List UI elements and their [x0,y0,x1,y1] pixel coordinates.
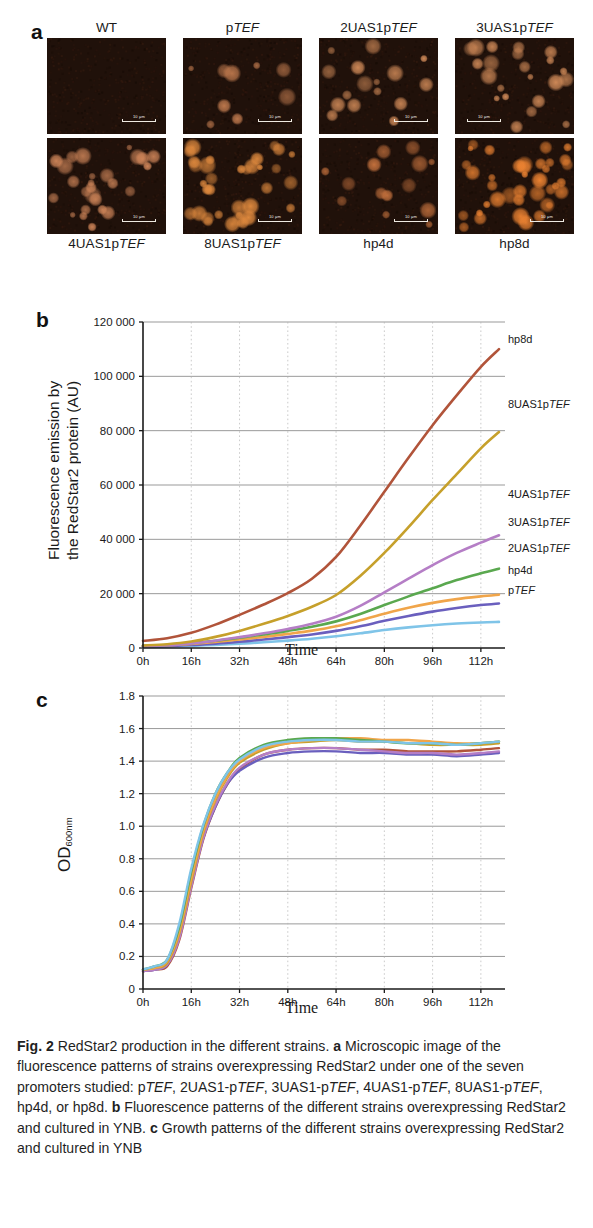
scale-bar: 10 μm [394,214,428,222]
panel-b-y-axis-line2: the RedStar2 protein (AU) [64,380,81,559]
scale-bar-line [122,219,156,222]
microscopy-label: 2UAS1pTEF [319,18,438,38]
microscopy-label-plain: 2UAS1p [340,20,391,35]
x-tick-label: 96h [423,655,442,667]
scale-bar: 10 μm [394,114,428,122]
microscopy-row-top: WT10 μmpTEF10 μm2UAS1pTEF10 μm3UAS1pTEF1… [47,18,577,134]
figure-2: a WT10 μmpTEF10 μm2UAS1pTEF10 μm3UAS1pTE… [0,0,593,1228]
y-tick-label: 1.8 [119,690,135,702]
scale-bar-label: 10 μm [269,214,281,219]
microscopy-label-plain: 4UAS1p [68,236,119,251]
microscopy-label: 3UAS1pTEF [455,18,574,38]
panel-c-y-axis-title: OD600nm [55,780,81,910]
panel-c-y-axis-main: OD [55,847,74,873]
microscopy-label: 4UAS1pTEF [47,234,166,254]
caption-a-tef1: TEF [145,1079,172,1095]
caption-a-tef4: TEF [420,1079,447,1095]
x-tick-label: 0h [137,655,150,667]
microscopy-cell: 10 μmhp8d [455,138,574,254]
series-label-pTEF: pTEF [508,584,536,596]
microscopy-row-bottom: 10 μm4UAS1pTEF10 μm8UAS1pTEF10 μmhp4d10 … [47,138,577,254]
y-tick-label: 120 000 [93,316,135,328]
microscopy-label: 8UAS1pTEF [183,234,302,254]
x-tick-label: 96h [423,996,442,1008]
y-tick-label: 0.6 [119,885,135,897]
microscopy-label: pTEF [183,18,302,38]
scale-bar-label: 10 μm [269,114,281,119]
microscopy-cell: 3UAS1pTEF10 μm [455,18,574,134]
y-tick-label: 80 000 [100,425,135,437]
microscopy-image: 10 μm [319,38,438,134]
x-tick-label: 64h [326,655,345,667]
microscopy-image: 10 μm [455,38,574,134]
panel-a-microscopy: a WT10 μmpTEF10 μm2UAS1pTEF10 μm3UAS1pTE… [0,0,593,290]
panel-b-y-axis-line1: Fluorescence emission by [45,380,62,559]
series-label-4UAS1pTEF: 4UAS1pTEF [508,488,571,500]
caption-a-text3: , 2UAS1-p [172,1079,237,1095]
y-tick-label: 40 000 [100,533,135,545]
microscopy-label-plain: hp8d [499,236,529,251]
curve-8UAS1pTEF [143,432,499,646]
microscopy-cell: 10 μm8UAS1pTEF [183,138,302,254]
scale-bar: 10 μm [122,214,156,222]
microscopy-image: 10 μm [47,138,166,234]
x-tick-label: 32h [230,996,249,1008]
fluorescence-chart: 020 00040 00060 00080 000100 000120 0000… [0,298,593,680]
microscopy-cell: pTEF10 μm [183,18,302,134]
scale-bar: 10 μm [467,114,501,122]
scale-bar-label: 10 μm [133,214,145,219]
microscopy-cell: 10 μm4UAS1pTEF [47,138,166,254]
microscopy-label-plain: 8UAS1p [204,236,255,251]
x-tick-label: 80h [375,996,394,1008]
y-tick-label: 1.0 [119,820,135,832]
panel-c-letter: c [36,688,48,712]
scale-bar-line [258,119,292,122]
microscopy-label-plain: hp4d [363,236,393,251]
scale-bar-label: 10 μm [405,214,417,219]
figure-caption: Fig. 2 RedStar2 production in the differ… [17,1036,577,1158]
x-tick-label: 112h [468,655,493,667]
microscopy-cell: 2UAS1pTEF10 μm [319,18,438,134]
scale-bar-label: 10 μm [133,114,145,119]
microscopy-image: 10 μm [183,38,302,134]
y-tick-label: 1.2 [119,788,135,800]
y-tick-label: 1.6 [119,723,135,735]
caption-a-text7: , 4UAS1-p [355,1079,420,1095]
x-tick-label: 112h [468,996,493,1008]
scale-bar-line [467,119,501,122]
y-tick-label: 0 [129,642,135,654]
y-tick-label: 0.2 [119,950,135,962]
y-tick-label: 20 000 [100,588,135,600]
panel-c-growth-chart: 00.20.40.60.81.01.21.41.61.80h16h32h48h6… [0,676,593,1031]
caption-a-tef3: TEF [329,1079,356,1095]
x-tick-label: 0h [137,996,150,1008]
scale-bar: 10 μm [122,114,156,122]
caption-figure-label: Fig. 2 [17,1038,54,1054]
scale-bar: 10 μm [530,214,564,222]
microscopy-label: WT [47,18,166,38]
scale-bar-line [394,119,428,122]
microscopy-image: 10 μm [47,38,166,134]
y-tick-label: 1.4 [119,755,136,767]
microscopy-cell: 10 μmhp4d [319,138,438,254]
caption-a-text5: , 3UAS1-p [264,1079,329,1095]
scale-bar-line [530,219,564,222]
scale-bar-line [394,219,428,222]
panel-a-letter: a [31,20,43,44]
panel-c-y-axis-sub: 600nm [63,818,74,847]
y-tick-label: 60 000 [100,479,135,491]
microscopy-image: 10 μm [455,138,574,234]
panel-b-x-axis-title: Time [285,641,318,659]
series-label-2UAS1pTEF: 2UAS1pTEF [508,542,571,554]
microscopy-label-plain: 3UAS1p [476,20,527,35]
series-label-3UAS1pTEF: 3UAS1pTEF [508,516,571,528]
caption-a-text9: , 8UAS1-p [447,1079,512,1095]
caption-a-tef5: TEF [512,1079,539,1095]
scale-bar-line [258,219,292,222]
scale-bar-label: 10 μm [405,114,417,119]
panel-b-fluorescence-chart: 020 00040 00060 00080 000100 000120 0000… [0,298,593,680]
y-tick-label: 100 000 [93,370,135,382]
x-tick-label: 16h [182,655,201,667]
growth-chart: 00.20.40.60.81.01.21.41.61.80h16h32h48h6… [0,676,593,1031]
x-tick-label: 16h [182,996,201,1008]
